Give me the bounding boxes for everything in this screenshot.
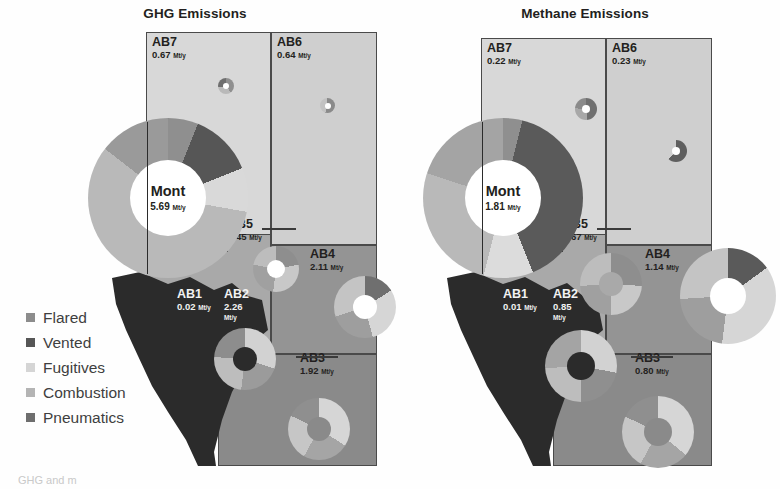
- legend-label-vented: Vented: [43, 335, 91, 351]
- legend-item-flared[interactable]: Flared: [26, 305, 126, 330]
- mont-value-methane: 1.81 Mt/y: [485, 202, 520, 212]
- legend-item-combustion[interactable]: Combustion: [26, 380, 126, 405]
- mont-name-ghg: Mont: [151, 184, 186, 199]
- donut-mont-methane-center: Mont 1.81 Mt/y: [465, 160, 541, 236]
- mont-name-methane: Mont: [486, 184, 521, 199]
- emission-source-legend: Flared Vented Fugitives Combustion Pneum…: [26, 305, 126, 430]
- region-label-ab4: AB4 1.14 Mt/y: [645, 248, 679, 272]
- legend-label-combustion: Combustion: [43, 385, 126, 401]
- legend-swatch-vented: [26, 338, 35, 347]
- donut-ab5[interactable]: [580, 253, 642, 315]
- donut-ab7[interactable]: [575, 98, 597, 120]
- map-plate-methane: AB7 0.22 Mt/y AB6 0.23 Mt/y AB5 0.67 Mt/…: [390, 0, 780, 489]
- region-label-ab1: AB1 0.01 Mt/y: [503, 288, 537, 312]
- region-label-ab2: AB2 2.26Mt/y: [224, 288, 249, 322]
- donut-ab3[interactable]: [288, 398, 350, 460]
- leader-line-ab5: [597, 228, 631, 230]
- leader-line-ab3: [296, 356, 338, 358]
- panel-methane-emissions: Methane Emissions AB7 0.22 Mt/y AB6 0.23…: [390, 0, 780, 489]
- donut-ab6[interactable]: [665, 140, 687, 162]
- leader-line-ab5: [262, 228, 296, 230]
- region-label-ab6: AB6 0.23 Mt/y: [612, 42, 646, 66]
- donut-ab4[interactable]: [334, 276, 396, 338]
- legend-label-flared: Flared: [43, 310, 87, 326]
- legend-swatch-combustion: [26, 388, 35, 397]
- mont-tick-ghg: [147, 122, 148, 274]
- figure-canvas: GHG Emissions AB7 0.67 Mt/y AB6: [0, 0, 780, 489]
- legend-item-vented[interactable]: Vented: [26, 330, 126, 355]
- legend-item-fugitives[interactable]: Fugitives: [26, 355, 126, 380]
- donut-ab2[interactable]: [214, 328, 276, 390]
- donut-ab7[interactable]: [218, 78, 234, 94]
- donut-ab2[interactable]: [545, 330, 617, 402]
- legend-swatch-flared: [26, 313, 35, 322]
- region-label-ab1: AB1 0.02 Mt/y: [177, 288, 211, 312]
- mont-value-ghg: 5.69 Mt/y: [150, 202, 185, 212]
- figure-caption: GHG and m: [18, 474, 758, 489]
- legend-label-fugitives: Fugitives: [43, 360, 105, 376]
- legend-item-pneumatics[interactable]: Pneumatics: [26, 405, 126, 430]
- region-label-ab6: AB6 0.64 Mt/y: [277, 36, 311, 60]
- region-label-ab7: AB7 0.67 Mt/y: [152, 36, 186, 60]
- donut-ab5[interactable]: [253, 246, 299, 292]
- mont-tick-methane: [482, 122, 483, 274]
- leader-line-ab3: [631, 356, 673, 358]
- donut-mont-ghg-center: Mont 5.69 Mt/y: [130, 160, 206, 236]
- legend-label-pneumatics: Pneumatics: [43, 410, 124, 426]
- region-label-ab7: AB7 0.22 Mt/y: [487, 42, 521, 66]
- legend-swatch-pneumatics: [26, 413, 35, 422]
- donut-ab6[interactable]: [320, 98, 335, 113]
- region-label-ab2: AB2 0.85Mt/y: [553, 288, 578, 322]
- donut-ab3[interactable]: [622, 396, 694, 468]
- legend-swatch-fugitives: [26, 363, 35, 372]
- region-label-ab4: AB4 2.11 Mt/y: [310, 248, 343, 272]
- donut-ab4[interactable]: [680, 248, 776, 344]
